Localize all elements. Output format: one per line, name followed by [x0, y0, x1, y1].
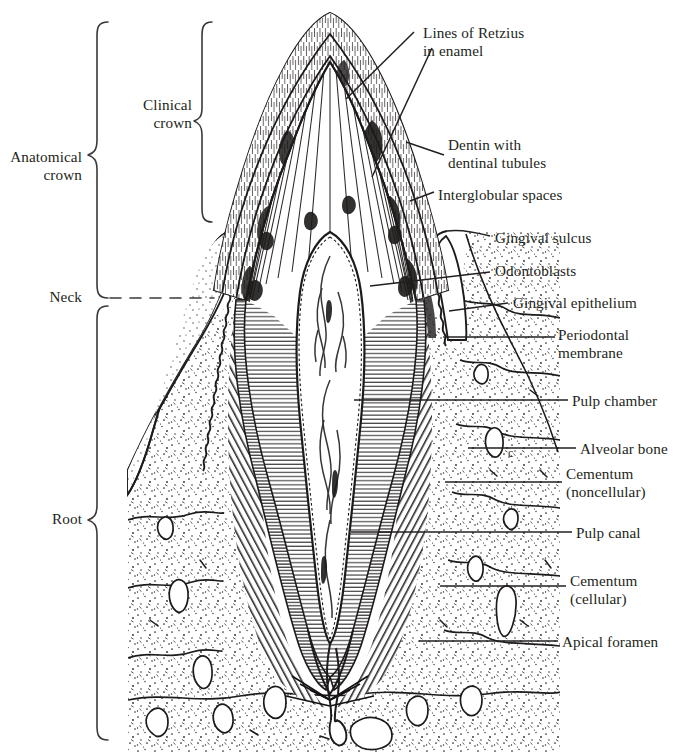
bone-annotation-c: c — [508, 446, 513, 460]
label-dentin: Dentin with dentinal tubules — [448, 136, 546, 171]
label-root: Root — [24, 510, 82, 528]
label-lines-of-retzius: Lines of Retzius in enamel — [423, 24, 524, 59]
label-apical-foramen: Apical foramen — [562, 633, 658, 651]
label-neck: Neck — [20, 288, 82, 306]
label-cementum-noncellular: Cementum (noncellular) — [566, 465, 646, 500]
label-pulp-chamber: Pulp chamber — [572, 392, 657, 410]
label-cementum-cellular: Cementum (cellular) — [570, 572, 637, 607]
bracket-anatomical-crown — [88, 22, 108, 298]
label-anatomical-crown: Anatomical crown — [4, 148, 82, 183]
tooth-anatomy-figure: c Anatomical crown Clinical crown Neck R… — [0, 0, 676, 755]
label-gingival-epithelium: Gingival epithelium — [513, 294, 637, 312]
label-gingival-sulcus: Gingival sulcus — [495, 229, 591, 247]
label-periodontal-membrane: Periodontal membrane — [558, 326, 629, 361]
label-pulp-canal: Pulp canal — [576, 524, 641, 542]
bracket-root — [88, 306, 108, 740]
bracket-clinical-crown — [194, 22, 212, 222]
label-interglobular-spaces: Interglobular spaces — [438, 186, 562, 204]
label-clinical-crown: Clinical crown — [120, 96, 192, 131]
label-odontoblasts: Odontoblasts — [495, 262, 576, 280]
label-alveolar-bone: Alveolar bone — [580, 440, 668, 458]
